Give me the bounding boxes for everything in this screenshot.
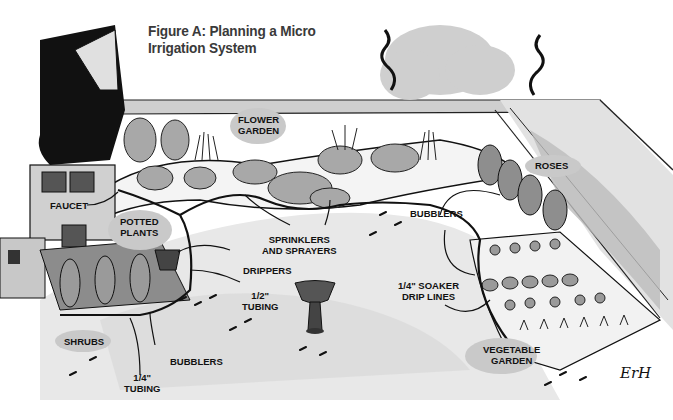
figure-title: Figure A: Planning a Micro Irrigation Sy… bbox=[148, 22, 316, 56]
label-half-inch-tubing: 1/2" TUBING bbox=[242, 290, 278, 312]
potted-plant bbox=[155, 250, 180, 270]
title-line-2: Irrigation System bbox=[148, 39, 316, 56]
label-vegetable-garden: VEGETABLE GARDEN bbox=[483, 344, 540, 366]
label-drippers: DRIPPERS bbox=[243, 265, 292, 276]
label-sprinklers-and-sprayers: SPRINKLERS AND SPRAYERS bbox=[262, 234, 337, 256]
garden-drawing: ErH bbox=[0, 0, 673, 420]
title-line-1: Figure A: Planning a Micro bbox=[148, 22, 316, 39]
shrubs bbox=[60, 254, 150, 307]
label-bubblers-right: BUBBLERS bbox=[410, 208, 463, 219]
label-faucet: FAUCET bbox=[50, 200, 88, 211]
label-bubblers-left: BUBBLERS bbox=[170, 356, 223, 367]
label-quarter-inch-tubing: 1/4" TUBING bbox=[124, 372, 160, 394]
label-flower-garden: FLOWER GARDEN bbox=[238, 114, 279, 136]
label-roses: ROSES bbox=[535, 160, 568, 171]
artist-signature: ErH bbox=[619, 364, 652, 382]
irrigation-illustration: ErH Figure A: Planning a Micro Irrigatio… bbox=[0, 0, 673, 420]
label-soaker-drip-lines: 1/4" SOAKER DRIP LINES bbox=[398, 280, 459, 302]
label-potted-plants: POTTED PLANTS bbox=[120, 216, 159, 238]
background-tree bbox=[380, 25, 515, 100]
label-shrubs: SHRUBS bbox=[64, 336, 104, 347]
